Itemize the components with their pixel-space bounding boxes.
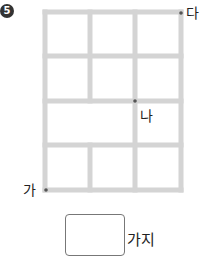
end-dot	[179, 11, 183, 15]
label-end: 다	[186, 6, 199, 20]
label-middle: 나	[140, 109, 153, 123]
label-start: 가	[23, 183, 36, 197]
middle-dot	[133, 99, 137, 103]
start-dot	[44, 188, 48, 192]
answer-input-box[interactable]	[65, 214, 125, 256]
unit-label: 가지	[127, 228, 155, 249]
